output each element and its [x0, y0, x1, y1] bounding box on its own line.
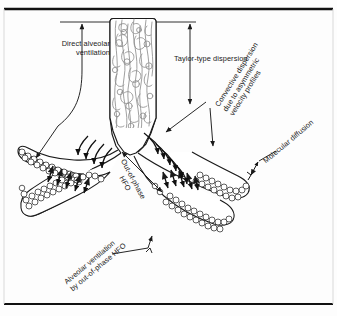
- right-alveolar-duct: [134, 152, 249, 232]
- label-direct-alveolar-ventilation: Direct alveolar ventilation: [8, 40, 110, 57]
- label-taylor-type-dispersion: Taylor-type dispersion: [174, 55, 248, 64]
- leader-convective-dispersion: [166, 102, 213, 146]
- figure-root: Direct alveolar ventilation Taylor-type …: [0, 0, 337, 316]
